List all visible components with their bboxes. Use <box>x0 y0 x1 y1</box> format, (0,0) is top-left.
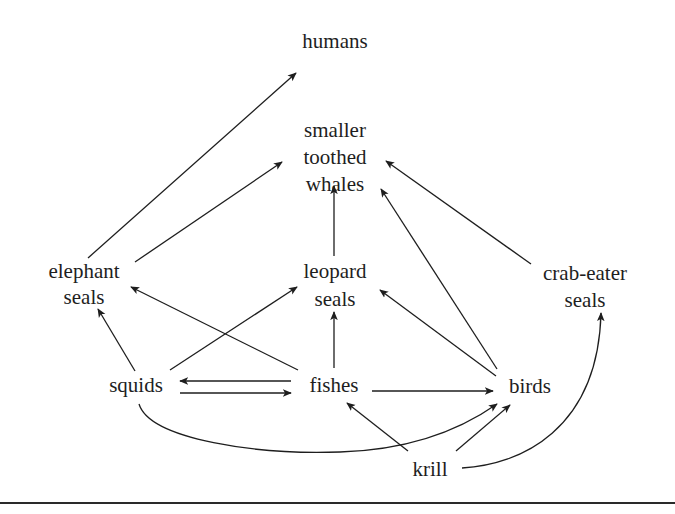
arrow-birds-to-whales <box>381 189 497 369</box>
node-label-crab-eater-seals-line2: seals <box>565 288 606 312</box>
node-label-fishes: fishes <box>310 373 359 397</box>
node-fishes: fishes <box>310 373 359 397</box>
node-label-leopard-seals-line1: leopard <box>304 259 367 283</box>
node-label-whales-line2: toothed <box>304 145 367 169</box>
arrow-fishes-to-elephant-seals <box>131 287 298 370</box>
arrow-elephant-seals-to-humans <box>88 73 296 258</box>
node-label-whales-line3: whales <box>306 172 364 196</box>
node-label-crab-eater-seals-line1: crab-eater <box>543 261 627 285</box>
arrow-crab-eater-seals-to-whales <box>386 161 531 264</box>
arrow-elephant-seals-to-whales <box>135 162 282 262</box>
node-label-leopard-seals-line2: seals <box>315 287 356 311</box>
node-krill: krill <box>413 457 448 481</box>
node-label-squids: squids <box>109 373 163 397</box>
arrow-squids-to-birds <box>139 404 497 452</box>
food-web-diagram: humans smaller toothed whales elephant s… <box>0 0 675 514</box>
node-label-elephant-seals-line2: seals <box>64 285 105 309</box>
arrow-krill-to-birds <box>456 405 510 451</box>
node-label-birds: birds <box>509 374 551 398</box>
arrow-squids-to-elephant-seals <box>98 309 135 371</box>
node-label-elephant-seals-line1: elephant <box>48 259 119 283</box>
node-crab-eater-seals: crab-eater seals <box>543 261 627 312</box>
arrow-birds-to-leopard-seals <box>380 290 496 376</box>
node-leopard-seals: leopard seals <box>304 259 367 311</box>
node-humans: humans <box>302 29 367 53</box>
node-squids: squids <box>109 373 163 397</box>
arrow-krill-to-fishes <box>347 403 408 451</box>
node-elephant-seals: elephant seals <box>48 259 119 309</box>
node-smaller-toothed-whales: smaller toothed whales <box>304 118 367 196</box>
node-label-krill: krill <box>413 457 448 481</box>
node-label-humans: humans <box>302 29 367 53</box>
arrow-squids-to-leopard-seals <box>170 287 297 370</box>
node-label-whales-line1: smaller <box>304 118 366 142</box>
node-birds: birds <box>509 374 551 398</box>
